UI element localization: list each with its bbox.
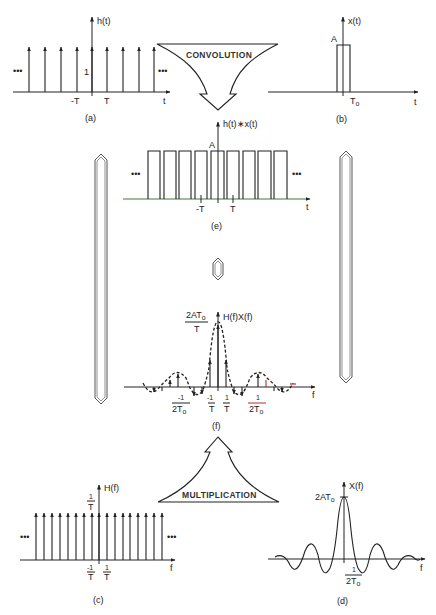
left-equivalence-bar [95, 154, 107, 404]
panel-b-rect-pulse: x(t) A To t (b) [268, 16, 418, 124]
svg-text:T: T [104, 572, 110, 582]
impulse-arrows [36, 513, 162, 560]
tick-1-over-2To: 1 2To [345, 566, 362, 587]
multiplication-label: MULTIPLICATION [182, 490, 257, 500]
y-label: h(t)∗x(t) [223, 119, 258, 129]
convolution-arrow: CONVOLUTION [157, 44, 278, 110]
caption-d: (d) [337, 596, 348, 606]
tick-1-over-2To: 1 2To [248, 394, 266, 415]
svg-text:2To: 2To [249, 404, 264, 415]
ellipsis-right: ••• [292, 169, 301, 179]
svg-text:T: T [88, 572, 94, 582]
tick-minus-T: -T [71, 96, 80, 106]
caption-f: (f) [212, 421, 221, 431]
peak-label: 2ATo T [185, 310, 208, 334]
amplitude-label: 1 [84, 67, 89, 77]
amplitude-label: A [331, 34, 337, 44]
x-label: f [170, 563, 173, 573]
peak-label: 2ATo [315, 492, 335, 503]
y-label: H(f) [104, 483, 119, 493]
multiplication-arrow: MULTIPLICATION [158, 437, 279, 502]
ellipsis-right: ••• [167, 532, 176, 542]
tick-minus-1-over-T: -1 T [87, 564, 95, 582]
svg-text:1: 1 [105, 564, 109, 571]
tick-T: T [104, 96, 110, 106]
svg-text:T: T [194, 324, 200, 334]
caption-c: (c) [93, 595, 104, 605]
ellipsis-right: ••• [158, 66, 167, 76]
y-label: X(f) [349, 481, 364, 491]
caption-a: (a) [85, 113, 96, 123]
x-label: t [306, 202, 309, 212]
y-label: H(f)X(f) [223, 312, 253, 322]
panel-a-impulse-train: h(t) 1 ••• ••• -T T t (a) [13, 16, 170, 123]
panel-d-sinc-spectrum: X(f) 2ATo 1 2To f (d) [268, 481, 425, 606]
ellipsis-left: ••• [20, 532, 29, 542]
center-equivalence-symbol [213, 258, 223, 280]
ellipsis-left: ••• [13, 66, 22, 76]
tick-minus-1-over-T: -1 T [207, 394, 215, 414]
fourier-transform-diagram: h(t) 1 ••• ••• -T T t (a) CONVOLUTION x(… [0, 0, 436, 615]
tick-1-over-T: 1 T [223, 394, 230, 414]
x-label: f [420, 563, 423, 573]
x-label: t [163, 96, 166, 106]
ellipsis-left: ••• [131, 169, 140, 179]
panel-f-sampled-spectrum: H(f)X(f) 2ATo T -1 2To -1 T 1 T 1 2To f … [124, 310, 315, 431]
svg-text:T: T [209, 404, 215, 414]
x-label: t [414, 97, 417, 107]
svg-text:-1: -1 [87, 564, 93, 571]
impulse-arrows [29, 47, 154, 92]
panel-c-frequency-impulse-train: H(f) 1 T ••• ••• -1 T 1 T f (c) [20, 483, 176, 605]
svg-text:2To: 2To [346, 576, 361, 587]
convolution-label: CONVOLUTION [186, 50, 252, 60]
caption-e: (e) [211, 221, 222, 231]
y-label: h(t) [97, 16, 111, 26]
svg-text:1: 1 [352, 566, 356, 573]
sinc-curve [275, 497, 420, 573]
caption-b: (b) [336, 114, 347, 124]
svg-text:2To: 2To [172, 404, 187, 415]
svg-text:-1: -1 [178, 394, 184, 401]
svg-text:T: T [88, 502, 94, 512]
svg-text:1: 1 [225, 394, 229, 401]
svg-text:T: T [224, 404, 230, 414]
svg-text:1: 1 [256, 394, 260, 401]
amplitude-label: 1 T [87, 493, 95, 512]
svg-text:-1: -1 [207, 394, 213, 401]
tick-T: T [230, 204, 236, 214]
amplitude-label: A [209, 140, 215, 150]
panel-e-pulse-train: h(t)∗x(t) A ••• ••• -T T t (e) [123, 119, 310, 231]
tick-1-over-T: 1 T [103, 564, 111, 582]
svg-text:2ATo: 2ATo [186, 310, 206, 321]
x-label: f [312, 390, 315, 400]
tick-To: To [350, 96, 360, 107]
right-equivalence-bar [340, 151, 352, 383]
tick-minus-T: -T [196, 204, 205, 214]
y-label: x(t) [348, 16, 361, 26]
tick-minus-1-over-2To: -1 2To [172, 394, 190, 415]
svg-text:1: 1 [89, 493, 93, 500]
